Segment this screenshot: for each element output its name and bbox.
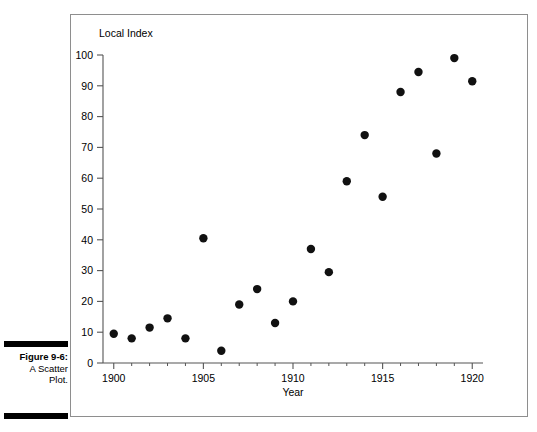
data-point: [235, 300, 243, 308]
data-point: [163, 314, 171, 322]
data-point: [378, 192, 386, 200]
data-point: [468, 77, 476, 85]
scatter-plot: 0102030405060708090100 19001905191019151…: [0, 0, 537, 432]
data-point: [307, 245, 315, 253]
x-axis-tick-label: 1920: [461, 372, 485, 384]
y-axis-tick-label: 0: [87, 357, 93, 369]
data-point: [450, 54, 458, 62]
y-axis-tick-label: 30: [81, 264, 93, 276]
data-point: [217, 346, 225, 354]
x-axis-tick-label: 1900: [102, 372, 126, 384]
y-axis-tick-label: 50: [81, 203, 93, 215]
data-point: [343, 177, 351, 185]
data-points-layer: [110, 54, 477, 355]
data-point: [127, 334, 135, 342]
y-axis-tick-label: 10: [81, 326, 93, 338]
y-axis-tick-label: 90: [81, 80, 93, 92]
y-axis-tick-label: 80: [81, 110, 93, 122]
y-axis-tick-label: 70: [81, 141, 93, 153]
data-point: [199, 234, 207, 242]
data-point: [110, 330, 118, 338]
y-axis-title: Local Index: [99, 27, 153, 39]
y-axis-tick-label: 20: [81, 295, 93, 307]
x-axis-tick-label: 1905: [192, 372, 216, 384]
data-point: [145, 323, 153, 331]
x-axis-tick-label: 1910: [281, 372, 305, 384]
data-point: [253, 285, 261, 293]
x-axis-title: Year: [282, 386, 304, 398]
y-axis-tick-label: 60: [81, 172, 93, 184]
x-axis-tick-label: 1915: [371, 372, 395, 384]
y-axis-tick-label: 100: [75, 49, 93, 61]
data-point: [432, 149, 440, 157]
data-point: [396, 88, 404, 96]
x-axis: 19001905191019151920: [102, 363, 484, 384]
data-point: [414, 68, 422, 76]
scatter-plot-svg: 0102030405060708090100 19001905191019151…: [0, 0, 537, 432]
y-axis: 0102030405060708090100: [75, 49, 103, 369]
data-point: [325, 268, 333, 276]
data-point: [361, 131, 369, 139]
data-point: [271, 319, 279, 327]
data-point: [181, 334, 189, 342]
y-axis-tick-label: 40: [81, 234, 93, 246]
data-point: [289, 297, 297, 305]
